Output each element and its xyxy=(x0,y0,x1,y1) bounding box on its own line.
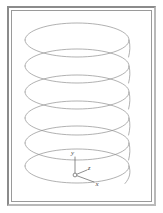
wire-lead xyxy=(125,166,130,184)
x-axis-line xyxy=(75,175,94,182)
coil-turn xyxy=(25,75,129,109)
coil-turn xyxy=(25,126,129,160)
origin-marker xyxy=(73,173,77,177)
coil-turn xyxy=(25,23,129,57)
y-axis-label: y xyxy=(70,149,75,157)
coordinate-axes xyxy=(75,157,94,182)
figure-frame: y z x xyxy=(0,0,163,213)
coil-turn xyxy=(25,49,129,83)
helix-coil xyxy=(25,23,130,184)
z-axis-label: z xyxy=(87,164,91,172)
coil-turn xyxy=(25,149,129,183)
coil-diagram-canvas: y z x xyxy=(11,10,152,202)
coil-turn xyxy=(25,101,129,135)
